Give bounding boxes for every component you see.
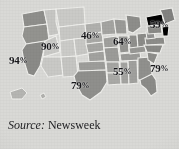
state-alaska xyxy=(10,88,27,99)
state-missouri xyxy=(104,47,120,62)
source-caption: Source: Newsweek xyxy=(8,118,101,133)
state-utah xyxy=(60,39,76,57)
state-kansas xyxy=(88,51,105,62)
state-kentucky xyxy=(129,46,146,54)
map-label-northeast: 59% xyxy=(150,19,168,30)
state-minnesota xyxy=(101,19,116,35)
state-michigan xyxy=(126,15,141,33)
map-label-southeast: 79% xyxy=(150,63,168,74)
map-label-south-central: 79% xyxy=(71,80,89,91)
map-label-deep-south: 55% xyxy=(113,66,131,77)
state-hawaii xyxy=(40,93,46,99)
source-label: Source: xyxy=(8,118,45,132)
map-label-great-lakes: 64% xyxy=(113,36,131,47)
map-label-mountain-west: 90% xyxy=(41,41,59,52)
newsweek-map-figure: 94% 90% 46% 64% 59% 55% 79% 79% Source: … xyxy=(0,0,179,149)
state-north-carolina xyxy=(144,45,163,53)
state-oklahoma xyxy=(78,61,106,71)
source-value: Newsweek xyxy=(48,118,101,132)
map-label-west-coast: 94% xyxy=(9,55,27,66)
state-arizona xyxy=(41,57,63,77)
state-wisconsin xyxy=(114,19,127,34)
map-label-upper-midwest: 46% xyxy=(81,30,99,41)
